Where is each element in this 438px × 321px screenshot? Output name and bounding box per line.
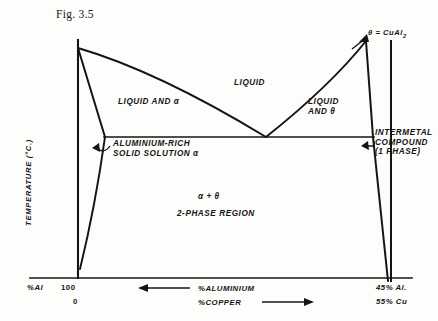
x-axis-right-value-top: 45% Al. (376, 283, 407, 292)
x-axis-right-value-bottom: 55% Cu (376, 297, 407, 306)
phase-diagram-canvas (0, 0, 438, 321)
solidus-alpha-line (78, 48, 105, 137)
liquidus-theta-curve (266, 41, 366, 137)
region-label-liquid: LIQUID (234, 78, 265, 88)
region-label-liquid-and-alpha: LIQUID AND α (118, 97, 179, 107)
theta-compound-subscript: 2 (403, 33, 407, 39)
copper-direction-arrow (262, 298, 314, 306)
region-label-two-phase-region: 2-PHASE REGION (177, 209, 255, 219)
liquidus-alpha-curve (78, 48, 266, 137)
solvus-alpha-curve (80, 137, 105, 269)
region-label-liquid-and-theta: LIQUID AND θ (308, 97, 339, 116)
x-axis-aluminium-label: %ALUMINIUM (198, 284, 255, 293)
y-axis-title: TEMPERATURE (°C.) (25, 127, 34, 237)
annotation-theta-equals-cual2: θ = CuAl2 (368, 29, 407, 39)
alpha-pointer-arrowhead (92, 143, 100, 152)
region-label-intermetal-compound: INTERMETAL COMPOUND (1 PHASE) (375, 128, 433, 157)
phase-diagram-figure: Fig. 3.5 TEMPERATURE (°C.) LIQUID LIQUID… (0, 0, 438, 321)
x-axis-left-value-bottom: 0 (73, 297, 78, 306)
region-label-alpha-plus-theta: α + θ (198, 192, 220, 202)
region-label-aluminium-rich-solid-solution: ALUMINIUM-RICH SOLID SOLUTION α (113, 139, 199, 158)
theta-left-boundary-line (366, 41, 388, 281)
intermetal-pointer-arrowhead (361, 141, 369, 150)
x-axis-copper-label: %COPPER (198, 298, 241, 307)
x-axis-left-species-label: %Al (27, 283, 43, 292)
theta-compound-formula: θ = CuAl (368, 28, 403, 37)
figure-caption: Fig. 3.5 (56, 8, 94, 22)
aluminium-direction-arrow (138, 284, 190, 292)
x-axis-left-value-top: 100 (61, 283, 76, 292)
